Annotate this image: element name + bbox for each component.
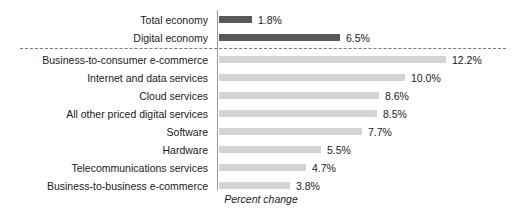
category-label: Total economy [0, 11, 208, 29]
bar [219, 92, 379, 99]
category-label: Business-to-consumer e-commerce [0, 51, 208, 69]
category-label: Hardware [0, 141, 208, 159]
bar-value-label: 8.6% [385, 87, 409, 105]
bar-row: Hardware5.5% [0, 141, 522, 159]
bar-value-label: 6.5% [346, 29, 370, 47]
bar [219, 56, 446, 63]
category-label: Cloud services [0, 87, 208, 105]
bar-row: Total economy1.8% [0, 11, 522, 29]
bar-row: Digital economy6.5% [0, 29, 522, 47]
bar [219, 182, 290, 189]
bar-value-label: 10.0% [411, 69, 441, 87]
bar-row: Internet and data services10.0% [0, 69, 522, 87]
bar-chart: Total economy1.8%Digital economy6.5%Busi… [0, 0, 522, 218]
bar-row: Telecommunications services4.7% [0, 159, 522, 177]
plot-area: Total economy1.8%Digital economy6.5%Busi… [0, 0, 522, 218]
category-label: Internet and data services [0, 69, 208, 87]
bar-row: Cloud services8.6% [0, 87, 522, 105]
category-label: Digital economy [0, 29, 208, 47]
bar-value-label: 7.7% [368, 123, 392, 141]
bar-row: Software7.7% [0, 123, 522, 141]
bar-value-label: 8.5% [383, 105, 407, 123]
bar [219, 16, 252, 23]
bar [219, 164, 306, 171]
bar [219, 74, 405, 81]
x-axis-label: Percent change [0, 193, 522, 205]
bar [219, 128, 362, 135]
bar-row: All other priced digital services8.5% [0, 105, 522, 123]
bar [219, 146, 321, 153]
bar-value-label: 5.5% [327, 141, 351, 159]
bar-value-label: 4.7% [312, 159, 336, 177]
bar-row: Business-to-consumer e-commerce12.2% [0, 51, 522, 69]
bar [219, 110, 377, 117]
bar-value-label: 12.2% [452, 51, 482, 69]
bar [219, 34, 340, 41]
category-label: Software [0, 123, 208, 141]
dashed-separator [20, 48, 506, 49]
bar-value-label: 1.8% [258, 11, 282, 29]
category-label: All other priced digital services [0, 105, 208, 123]
category-label: Telecommunications services [0, 159, 208, 177]
